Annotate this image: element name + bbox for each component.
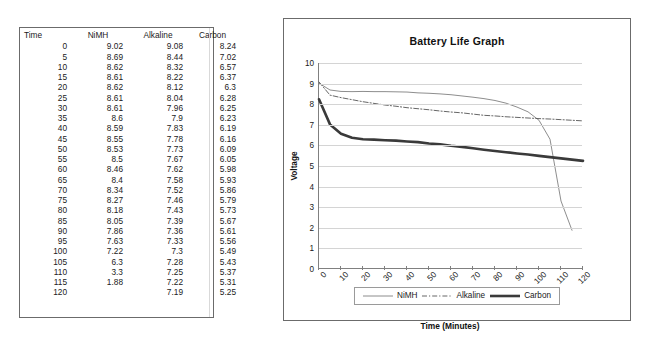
legend-label: Carbon xyxy=(524,291,551,300)
gridline xyxy=(319,145,582,146)
cell-nimh: 8.61 xyxy=(73,72,131,82)
y-axis-tick-label: 5 xyxy=(309,162,314,171)
cell-time: 120 xyxy=(20,287,73,297)
y-axis-tick-label: 6 xyxy=(309,141,314,150)
cell-alkaline: 7.43 xyxy=(131,205,189,215)
x-axis-tick-mark xyxy=(318,266,319,270)
cell-nimh: 8.18 xyxy=(73,205,131,215)
cell-carbon: 6.28 xyxy=(189,93,242,103)
legend-item-nimh[interactable]: NiMH xyxy=(363,291,417,300)
cell-nimh: 8.59 xyxy=(73,123,131,133)
cell-nimh: 1.88 xyxy=(73,277,131,287)
y-axis-tick-label: 9 xyxy=(309,79,314,88)
gridline xyxy=(319,228,582,229)
gridline xyxy=(319,166,582,167)
legend-swatch-carbon xyxy=(490,293,520,299)
cell-carbon: 6.09 xyxy=(189,144,242,154)
gridline xyxy=(319,84,582,85)
cell-time: 45 xyxy=(20,134,73,144)
column-header-nimh: NiMH xyxy=(73,28,131,41)
cell-nimh: 8.69 xyxy=(73,52,131,62)
cell-alkaline: 7.39 xyxy=(131,216,189,226)
cell-alkaline: 8.04 xyxy=(131,93,189,103)
cell-carbon: 5.25 xyxy=(189,287,242,297)
cell-nimh: 8.62 xyxy=(73,62,131,72)
battery-data-table-panel: Time NiMH Alkaline Carbon 09.029.088.245… xyxy=(19,27,214,318)
cell-nimh: 8.62 xyxy=(73,82,131,92)
cell-alkaline: 7.36 xyxy=(131,226,189,236)
x-axis-tick-mark xyxy=(406,266,407,270)
cell-time: 30 xyxy=(20,103,73,113)
cell-time: 75 xyxy=(20,195,73,205)
cell-carbon: 6.37 xyxy=(189,72,242,82)
gridline xyxy=(319,248,582,249)
gridline xyxy=(319,104,582,105)
cell-nimh: 6.3 xyxy=(73,257,131,267)
cell-nimh xyxy=(73,287,131,297)
column-header-alkaline: Alkaline xyxy=(131,28,189,41)
cell-carbon: 5.73 xyxy=(189,205,242,215)
cell-carbon: 6.23 xyxy=(189,113,242,123)
cell-alkaline: 7.28 xyxy=(131,257,189,267)
cell-carbon: 5.86 xyxy=(189,185,242,195)
cell-carbon: 5.98 xyxy=(189,164,242,174)
cell-alkaline: 7.67 xyxy=(131,154,189,164)
cell-carbon: 5.31 xyxy=(189,277,242,287)
cell-alkaline: 8.22 xyxy=(131,72,189,82)
cell-time: 60 xyxy=(20,164,73,174)
cell-carbon: 5.93 xyxy=(189,175,242,185)
cell-time: 40 xyxy=(20,123,73,133)
cell-time: 90 xyxy=(20,226,73,236)
cell-nimh: 8.5 xyxy=(73,154,131,164)
legend-item-carbon[interactable]: Carbon xyxy=(490,291,551,300)
cell-carbon: 5.37 xyxy=(189,267,242,277)
cell-alkaline: 8.44 xyxy=(131,52,189,62)
cell-nimh: 3.3 xyxy=(73,267,131,277)
cell-carbon: 5.67 xyxy=(189,216,242,226)
legend-item-alkaline[interactable]: Alkaline xyxy=(422,291,485,300)
y-axis-ticks: 012345678910 xyxy=(296,63,314,269)
cell-nimh: 8.46 xyxy=(73,164,131,174)
cell-alkaline: 7.19 xyxy=(131,287,189,297)
cell-alkaline: 9.08 xyxy=(131,41,189,51)
cell-time: 20 xyxy=(20,82,73,92)
cell-time: 115 xyxy=(20,277,73,287)
cell-nimh: 9.02 xyxy=(73,41,131,51)
y-axis-tick-label: 1 xyxy=(309,244,314,253)
cell-alkaline: 7.62 xyxy=(131,164,189,174)
cell-time: 25 xyxy=(20,93,73,103)
cell-alkaline: 7.22 xyxy=(131,277,189,287)
x-axis-tick-mark xyxy=(428,266,429,270)
cell-time: 15 xyxy=(20,72,73,82)
gridline xyxy=(319,125,582,126)
cell-carbon: 6.16 xyxy=(189,134,242,144)
legend-swatch-nimh xyxy=(363,293,393,299)
x-axis-tick-mark xyxy=(560,266,561,270)
legend-label: Alkaline xyxy=(456,291,485,300)
cell-nimh: 7.86 xyxy=(73,226,131,236)
x-axis-tick-mark xyxy=(494,266,495,270)
legend-label: NiMH xyxy=(397,291,417,300)
cell-alkaline: 7.83 xyxy=(131,123,189,133)
plot-area-wrapper: Voltage 012345678910 0102030405060708090… xyxy=(318,63,582,269)
gridline xyxy=(319,207,582,208)
cell-alkaline: 7.33 xyxy=(131,236,189,246)
cell-nimh: 8.34 xyxy=(73,185,131,195)
cell-alkaline: 7.46 xyxy=(131,195,189,205)
cell-carbon: 6.05 xyxy=(189,154,242,164)
cell-alkaline: 7.58 xyxy=(131,175,189,185)
cell-carbon: 6.25 xyxy=(189,103,242,113)
cell-carbon: 6.19 xyxy=(189,123,242,133)
x-axis-tick-mark xyxy=(582,266,583,270)
cell-time: 95 xyxy=(20,236,73,246)
cell-carbon: 5.49 xyxy=(189,246,242,256)
y-axis-tick-label: 3 xyxy=(309,203,314,212)
cell-alkaline: 7.9 xyxy=(131,113,189,123)
cell-alkaline: 7.25 xyxy=(131,267,189,277)
legend-swatch-alkaline xyxy=(422,293,452,299)
x-axis-tick-mark xyxy=(340,266,341,270)
cell-time: 65 xyxy=(20,175,73,185)
x-axis-tick-mark xyxy=(472,266,473,270)
table-inner-rule xyxy=(209,28,210,317)
gridline xyxy=(319,187,582,188)
